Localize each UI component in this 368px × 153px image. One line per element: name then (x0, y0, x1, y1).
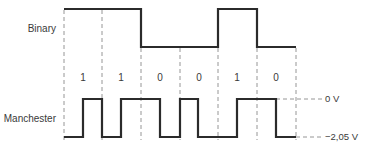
bit-value: 1 (80, 72, 86, 83)
voltage-low-label: −2,05 V (325, 131, 359, 142)
binary-manchester-diagram: Binary Manchester 1 1 0 0 1 0 0 V −2,05 … (0, 0, 368, 153)
bit-value: 1 (234, 72, 240, 83)
bit-value: 1 (118, 72, 124, 83)
voltage-high-label: 0 V (325, 93, 340, 104)
manchester-waveform (64, 99, 296, 137)
bit-value: 0 (273, 72, 279, 83)
bit-value: 0 (196, 72, 202, 83)
bit-value: 0 (157, 72, 163, 83)
binary-label: Binary (28, 23, 56, 34)
manchester-label: Manchester (4, 113, 57, 124)
voltage-reference-lines (276, 99, 324, 137)
binary-waveform (64, 9, 296, 47)
